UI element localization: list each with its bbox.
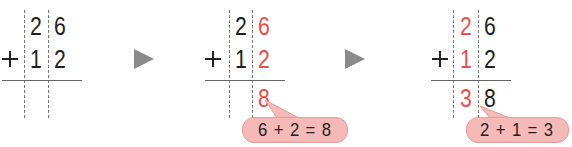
sum-line <box>205 80 285 81</box>
tens-column-guide <box>453 10 454 118</box>
result-tens-digit: 3 <box>458 86 475 111</box>
top-ones-digit: 6 <box>52 14 69 39</box>
bottom-tens-digit: 1 <box>28 47 45 72</box>
ones-sum-bubble: 6 + 2 = 8 <box>242 117 348 143</box>
play-arrow-icon <box>134 49 154 69</box>
plus-sign-icon <box>205 51 221 67</box>
tens-sum-bubble: 2 + 1 = 3 <box>466 117 569 143</box>
sum-line <box>431 80 511 81</box>
tens-column-guide <box>24 10 25 118</box>
ones-sum-equation: 6 + 2 = 8 <box>258 118 332 142</box>
bottom-ones-digit: 2 <box>52 47 69 72</box>
bottom-tens-digit: 1 <box>233 47 250 72</box>
top-ones-digit-highlighted: 6 <box>256 14 273 39</box>
play-arrow-icon <box>345 49 365 69</box>
step-1-panel: 2 6 1 2 <box>0 0 190 147</box>
step-3-panel: 2 6 1 2 3 8 2 + 1 = 3 <box>428 0 572 147</box>
plus-sign-icon <box>432 51 448 67</box>
ones-column-guide <box>252 10 253 118</box>
plus-sign-icon <box>2 51 18 67</box>
ones-column-guide <box>48 10 49 118</box>
tens-column-guide <box>229 10 230 118</box>
step-2-panel: 2 6 1 2 8 6 + 2 = 8 <box>203 0 393 147</box>
top-tens-digit-highlighted: 2 <box>458 14 475 39</box>
sum-line <box>2 80 82 81</box>
top-ones-digit: 6 <box>482 14 499 39</box>
bottom-ones-digit-highlighted: 2 <box>256 47 273 72</box>
tens-sum-equation: 2 + 1 = 3 <box>481 118 555 142</box>
bottom-tens-digit-highlighted: 1 <box>458 47 475 72</box>
top-tens-digit: 2 <box>28 14 45 39</box>
bottom-ones-digit: 2 <box>482 47 499 72</box>
top-tens-digit: 2 <box>233 14 250 39</box>
ones-column-guide <box>478 10 479 118</box>
